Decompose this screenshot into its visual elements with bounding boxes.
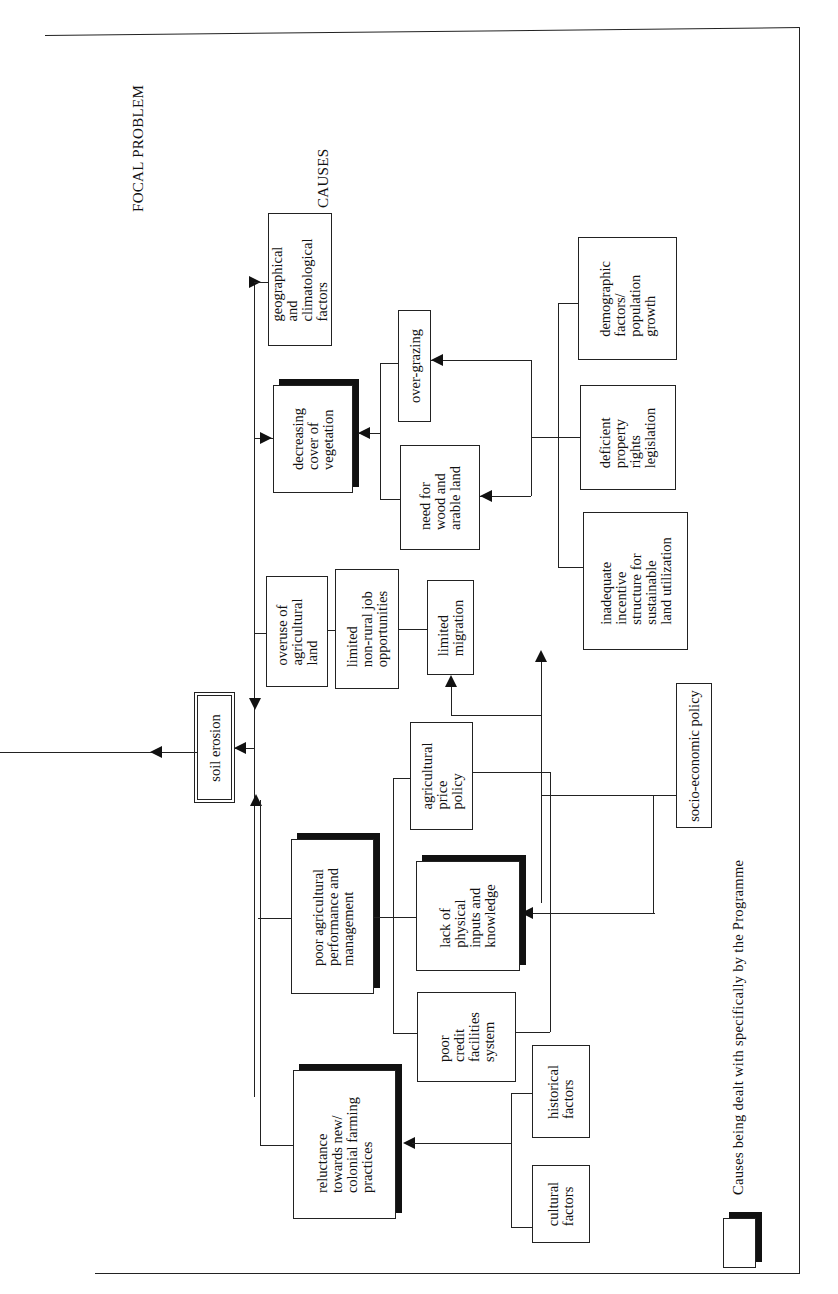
main-spine-line [254, 282, 255, 1097]
legend-text: Causes being dealt with specifically by … [730, 860, 747, 1195]
connector [260, 800, 261, 1145]
connector [527, 913, 655, 914]
connector [550, 772, 551, 1032]
connector [431, 360, 531, 361]
cause-wood-label: need for wood and arable land [418, 465, 463, 529]
arrow-icon [480, 490, 492, 502]
cause-wood: need for wood and arable land [400, 445, 480, 550]
connector [393, 778, 410, 779]
output-arrow-icon [150, 746, 162, 758]
cause-vegetation: decreasing cover of vegetation [273, 385, 353, 493]
arrow-icon [431, 354, 443, 366]
cause-lack-of-inputs-label: lack of physical inputs and knowledge [438, 884, 498, 948]
cause-price-policy-label: agricultural price policy [419, 743, 464, 810]
cause-demographic-label: demographic factors/ population growth [598, 261, 658, 337]
connector [541, 662, 542, 903]
cause-poor-agri-performance-label: poor agricultural performance and manage… [310, 868, 355, 966]
cause-overuse: overuse of agricultural land [266, 576, 328, 687]
cause-historical-label: historical factors [546, 1065, 576, 1119]
cause-incentive-label: inadequate incentive structure for susta… [598, 537, 673, 624]
cause-price-policy: agricultural price policy [410, 722, 473, 830]
connector [516, 1032, 550, 1033]
cause-cultural-label: cultural factors [546, 1182, 576, 1226]
connector [511, 1093, 512, 1228]
spine-to-focal-arrow-icon [234, 742, 246, 754]
connector [328, 630, 335, 631]
focal-problem-box: soil erosion [197, 695, 232, 800]
focal-problem-heading: FOCAL PROBLEM [130, 85, 147, 212]
frame-bottom-border [95, 1273, 800, 1274]
cause-socio-economic-policy: socio-economic policy [676, 683, 712, 828]
frame-right-border [799, 28, 800, 1273]
cause-cultural: cultural factors [532, 1165, 590, 1243]
connector [531, 437, 581, 438]
spine-down-arrow-icon [249, 698, 261, 710]
connector [399, 629, 427, 630]
arrow-icon [358, 427, 370, 439]
arrow-icon [521, 907, 533, 919]
connector [558, 303, 578, 304]
cause-reluctance-label: reluctance towards new/ colonial farming… [315, 1096, 375, 1192]
connector [393, 778, 394, 1033]
cause-limited-migration: limited migration [427, 580, 474, 675]
connector [558, 303, 559, 568]
cause-property-rights: deficient property rights legislation [580, 385, 676, 490]
cause-overgrazing: over-grazing [398, 310, 431, 422]
connector [451, 687, 452, 715]
cause-reluctance: reluctance towards new/ colonial farming… [293, 1070, 396, 1219]
connector [258, 918, 291, 919]
cause-incentive: inadequate incentive structure for susta… [583, 512, 688, 650]
cause-poor-credit-label: poor credit facilities system [437, 1012, 497, 1062]
connector [511, 1227, 532, 1228]
cause-historical: historical factors [532, 1045, 590, 1138]
causes-heading: CAUSES [315, 149, 332, 208]
connector [653, 795, 654, 914]
legend-swatch [723, 1218, 756, 1268]
cause-limited-jobs-label: limited non-rural job opportunities [345, 591, 390, 668]
connector [254, 633, 266, 634]
cause-property-rights-label: deficient property rights legislation [598, 407, 658, 467]
connector [260, 1145, 293, 1146]
cause-lack-of-inputs: lack of physical inputs and knowledge [416, 861, 520, 971]
connector [511, 1093, 532, 1094]
output-line [0, 752, 197, 753]
connector [451, 715, 541, 716]
connector [541, 795, 676, 796]
connector [558, 567, 583, 568]
connector [531, 360, 532, 496]
cause-limited-migration-label: limited migration [436, 599, 466, 655]
cause-geographical: geographical and climatological factors [268, 213, 332, 346]
arrow-icon [445, 675, 457, 687]
connector [254, 282, 268, 283]
connector [393, 1033, 417, 1034]
connector [412, 1143, 512, 1144]
cause-geographical-label: geographical and climatological factors [270, 238, 330, 321]
connector [380, 363, 398, 364]
focal-problem-label: soil erosion [207, 714, 222, 781]
cause-poor-agri-performance: poor agricultural performance and manage… [291, 839, 374, 994]
connector [380, 363, 381, 500]
arrow-icon [260, 432, 272, 444]
frame-top-border [45, 27, 800, 36]
connector [380, 499, 400, 500]
cause-limited-jobs: limited non-rural job opportunities [335, 569, 399, 689]
arrow-icon [535, 650, 547, 662]
connector [374, 917, 416, 918]
connector [473, 772, 550, 773]
cause-overgrazing-label: over-grazing [407, 329, 422, 403]
cause-poor-credit: poor credit facilities system [417, 992, 516, 1082]
cause-socio-economic-policy-label: socio-economic policy [687, 690, 702, 822]
cause-demographic: demographic factors/ population growth [578, 237, 677, 360]
cause-overuse-label: overuse of agricultural land [275, 598, 320, 665]
cause-vegetation-label: decreasing cover of vegetation [291, 408, 336, 470]
